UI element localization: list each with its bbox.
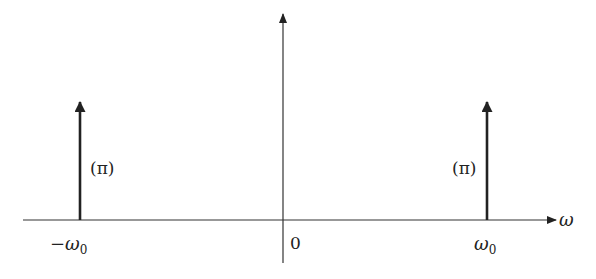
axis-label-omega: ω bbox=[559, 209, 574, 230]
impulse-left-weight: (π) bbox=[90, 158, 114, 178]
tick-label-neg-omega0: −ω0 bbox=[50, 233, 87, 257]
spectrum-diagram: (π) (π) −ω0 0 ω0 ω bbox=[0, 0, 596, 279]
tick-label-zero: 0 bbox=[290, 233, 301, 253]
tick-label-omega0: ω0 bbox=[474, 233, 496, 257]
impulse-right-weight: (π) bbox=[452, 158, 476, 178]
